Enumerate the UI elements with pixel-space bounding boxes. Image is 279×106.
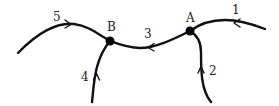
- node-A: A: [185, 11, 195, 36]
- edge-4: 4: [81, 41, 110, 102]
- edge-label-3: 3: [144, 27, 152, 41]
- node-label-A: A: [185, 11, 195, 25]
- edge-label-2: 2: [209, 64, 217, 78]
- edge-5: 5: [18, 10, 110, 53]
- edge-3: 3: [110, 27, 190, 51]
- edge-2: 2: [190, 31, 217, 102]
- edge-label-4: 4: [81, 70, 89, 84]
- graph-diagram: 5 4 3 1 2 B A: [0, 0, 279, 106]
- edge-1: 1: [190, 3, 265, 31]
- edge-label-5: 5: [53, 10, 61, 24]
- node-B: B: [106, 20, 117, 46]
- node-label-B: B: [107, 20, 116, 34]
- edge-label-1: 1: [232, 3, 240, 17]
